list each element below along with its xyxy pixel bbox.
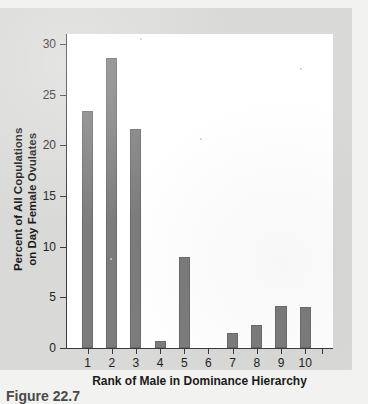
figure-caption: Figure 22.7 (6, 388, 80, 404)
plot-area: 051015202530 12345678910 (66, 34, 333, 349)
x-axis-tick (233, 348, 234, 354)
x-axis-tick-label: 10 (299, 356, 312, 370)
x-axis-tick (112, 348, 113, 354)
x-axis-tick-label: 8 (253, 356, 260, 370)
y-axis-title: Percent of All Copulations on Day Female… (8, 104, 44, 294)
y-axis-tick: 25 (60, 95, 67, 96)
y-axis-tick: 15 (60, 196, 67, 197)
bar-rank-4 (155, 341, 166, 348)
bar-rank-1 (82, 111, 93, 348)
y-axis-tick-label: 30 (43, 37, 56, 51)
y-axis-tick: 5 (60, 297, 67, 298)
x-axis-tick (305, 348, 306, 354)
y-axis-tick-label: 25 (43, 88, 56, 102)
bar-rank-10 (300, 307, 311, 348)
y-axis-tick: 0 (60, 348, 67, 349)
bar-rank-7 (227, 333, 238, 348)
y-axis-tick-label: 20 (43, 138, 56, 152)
x-axis-tick (257, 348, 258, 354)
bar-rank-9 (275, 306, 286, 348)
bars-layer (67, 34, 333, 348)
x-axis-title: Rank of Male in Dominance Hierarchy (66, 374, 333, 388)
x-axis-tick-label: 6 (205, 356, 212, 370)
bar-rank-5 (179, 257, 190, 348)
bar-rank-3 (130, 129, 141, 348)
y-axis-tick-label: 0 (49, 341, 56, 355)
x-axis-tick (281, 348, 282, 354)
x-axis-tick (208, 348, 209, 354)
x-axis-tick-label: 2 (108, 356, 115, 370)
y-axis-title-line-2: on Day Female Ovulates (26, 127, 40, 270)
x-axis-tick-end (322, 348, 323, 354)
y-axis-title-line-1: Percent of All Copulations (12, 127, 26, 270)
figure-panel: Percent of All Copulations on Day Female… (0, 8, 352, 370)
x-axis-tick (88, 348, 89, 354)
bar-rank-2 (106, 58, 117, 348)
y-axis-tick-label: 10 (43, 240, 56, 254)
x-axis-tick (136, 348, 137, 354)
y-axis-tick-label: 15 (43, 189, 56, 203)
x-axis-tick (184, 348, 185, 354)
y-axis-tick: 30 (60, 44, 67, 45)
x-axis-tick-label: 1 (84, 356, 91, 370)
y-axis-tick-label: 5 (49, 290, 56, 304)
x-axis-tick (160, 348, 161, 354)
x-axis-tick-label: 5 (181, 356, 188, 370)
x-axis-tick-label: 4 (157, 356, 164, 370)
bar-rank-8 (251, 325, 262, 348)
x-axis-tick-label: 3 (133, 356, 140, 370)
x-axis-tick-label: 7 (229, 356, 236, 370)
y-axis-tick: 10 (60, 247, 67, 248)
y-axis-tick: 20 (60, 145, 67, 146)
x-axis-tick-label: 9 (278, 356, 285, 370)
